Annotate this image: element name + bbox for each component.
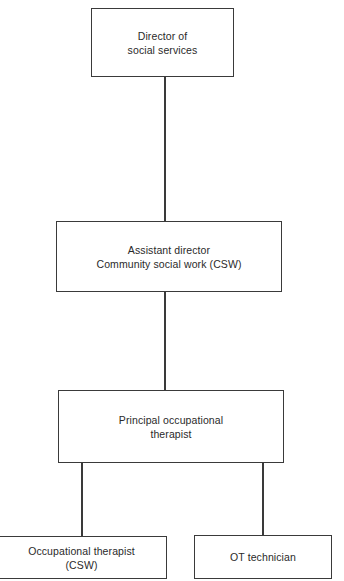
node-director-of-social-services: Director of social services [91, 8, 234, 77]
node-label-line: Occupational therapist [28, 544, 135, 558]
node-label-line: (CSW) [66, 558, 98, 572]
node-label-line: OT technician [230, 550, 296, 564]
node-label-line: Director of [138, 29, 188, 43]
connector-principal-tech [262, 463, 264, 535]
node-label-line: Community social work (CSW) [96, 257, 241, 271]
connector-director-assistant [164, 77, 166, 221]
connector-assistant-principal [164, 292, 166, 390]
node-principal-occupational-therapist: Principal occupational therapist [58, 390, 284, 463]
node-label-line: social services [128, 43, 198, 57]
node-assistant-director: Assistant director Community social work… [56, 221, 282, 292]
node-label-line: Principal occupational [119, 413, 223, 427]
node-label-line: Assistant director [128, 243, 210, 257]
node-label-line: therapist [150, 427, 191, 441]
org-chart: Director of social services Assistant di… [0, 0, 344, 581]
node-ot-technician: OT technician [194, 535, 332, 579]
connector-principal-ot [81, 463, 83, 536]
node-occupational-therapist: Occupational therapist (CSW) [0, 536, 167, 579]
